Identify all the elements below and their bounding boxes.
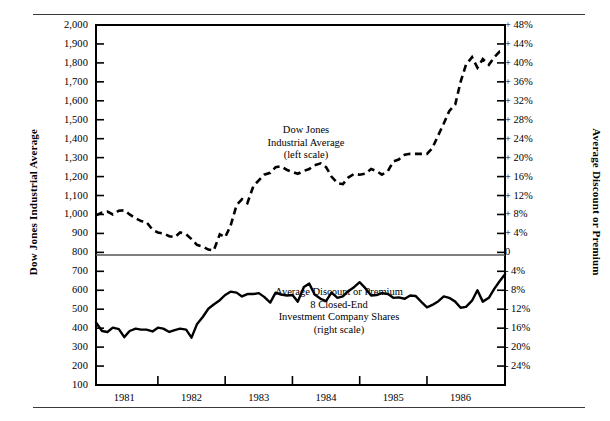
- right-axis-tick-label: + 44%: [505, 39, 533, 50]
- x-axis-tick-label: 1985: [363, 392, 423, 403]
- right-axis-tick-label: + 36%: [505, 77, 533, 88]
- left-tick-marks: [96, 44, 104, 366]
- right-axis-tick-label: + 4%: [505, 228, 528, 239]
- right-axis-tick-label: + 32%: [505, 96, 533, 107]
- x-axis-tick-label: 1982: [162, 392, 222, 403]
- annotation-discount-line-1: Average Discount or Premium: [246, 286, 432, 299]
- right-axis-tick-label: + 28%: [505, 115, 533, 126]
- right-axis-tick-label: + 48%: [505, 20, 533, 31]
- annotation-discount-line-2: 8 Closed-End: [246, 299, 432, 312]
- right-axis-tick-label: + 16%: [505, 172, 533, 183]
- annotation-discount-line-4: (right scale): [246, 324, 432, 337]
- right-axis-tick-label: - 24%: [505, 361, 530, 372]
- right-axis-tick-label: + 20%: [505, 153, 533, 164]
- left-axis-tick-label: 1,300: [64, 153, 88, 164]
- left-axis-tick-label: 1,500: [64, 115, 88, 126]
- left-axis-tick-label: 1,400: [64, 134, 88, 145]
- left-axis-title: Dow Jones Industrial Average: [27, 117, 39, 287]
- right-tick-marks: [497, 44, 505, 366]
- right-axis-tick-label: + 24%: [505, 134, 533, 145]
- bottom-tick-marks: [158, 376, 427, 385]
- annotation-djia-line-3: (left scale): [232, 149, 380, 162]
- left-axis-tick-label: 1,000: [64, 209, 88, 220]
- left-axis-tick-label: 1,700: [64, 77, 88, 88]
- left-axis-tick-label: 1,900: [64, 39, 88, 50]
- left-axis-tick-label: 700: [72, 266, 88, 277]
- right-axis-tick-label: 0: [505, 247, 510, 258]
- left-axis-tick-label: 800: [72, 247, 88, 258]
- left-axis-tick-label: 900: [72, 228, 88, 239]
- left-axis-tick-label: 1,800: [64, 58, 88, 69]
- left-axis-tick-label: 2,000: [64, 20, 88, 31]
- right-axis-tick-label: - 12%: [505, 304, 530, 315]
- annotation-djia-line-1: Dow Jones: [232, 124, 380, 137]
- annotation-discount-line-3: Investment Company Shares: [246, 311, 432, 324]
- x-axis-tick-label: 1983: [229, 392, 289, 403]
- left-axis-tick-label: 1,200: [64, 172, 88, 183]
- right-axis-tick-label: + 40%: [505, 58, 533, 69]
- left-axis-tick-label: 500: [72, 304, 88, 315]
- left-axis-tick-label: 200: [72, 361, 88, 372]
- left-axis-tick-label: 300: [72, 342, 88, 353]
- x-axis-tick-label: 1984: [296, 392, 356, 403]
- annotation-djia-line-2: Industrial Average: [232, 137, 380, 150]
- left-axis-tick-label: 400: [72, 323, 88, 334]
- right-axis-title: Average Discount or Premium: [591, 117, 603, 287]
- annotation-discount: Average Discount or Premium 8 Closed-End…: [246, 286, 432, 336]
- right-axis-tick-label: - 4%: [505, 266, 525, 277]
- x-axis-tick-label: 1986: [431, 392, 491, 403]
- x-axis-tick-label: 1981: [94, 392, 154, 403]
- left-axis-tick-label: 600: [72, 285, 88, 296]
- left-axis-tick-label: 1,100: [64, 191, 88, 202]
- right-axis-tick-label: + 12%: [505, 191, 533, 202]
- right-axis-tick-label: - 16%: [505, 323, 530, 334]
- right-axis-tick-label: + 8%: [505, 209, 528, 220]
- annotation-djia: Dow Jones Industrial Average (left scale…: [232, 124, 380, 162]
- left-axis-tick-label: 1,600: [64, 96, 88, 107]
- figure-container: 2,0001,9001,8001,7001,6001,5001,4001,300…: [0, 0, 610, 421]
- right-axis-tick-label: - 8%: [505, 285, 525, 296]
- right-axis-tick-label: - 20%: [505, 342, 530, 353]
- left-axis-tick-label: 100: [72, 380, 88, 391]
- right-axis-tick-labels: + 48%+ 44%+ 40%+ 36%+ 32%+ 28%+ 24%+ 20%…: [505, 0, 575, 421]
